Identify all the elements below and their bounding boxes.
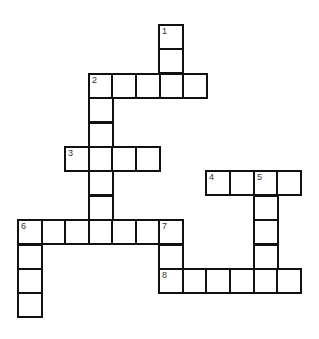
crossword-cell[interactable] xyxy=(111,146,137,172)
crossword-cell[interactable] xyxy=(276,268,302,294)
clue-number: 4 xyxy=(209,172,214,182)
crossword-cell[interactable] xyxy=(158,244,184,270)
crossword-cell[interactable] xyxy=(88,195,114,221)
crossword-cell[interactable] xyxy=(135,146,161,172)
clue-number: 1 xyxy=(162,26,167,36)
crossword-cell[interactable] xyxy=(17,292,43,318)
crossword-cell[interactable] xyxy=(88,170,114,196)
crossword-cell[interactable]: 3 xyxy=(64,146,90,172)
crossword-cell[interactable]: 1 xyxy=(158,24,184,50)
crossword-cell[interactable]: 4 xyxy=(205,170,231,196)
crossword-cell[interactable] xyxy=(111,219,137,245)
clue-number: 7 xyxy=(162,221,167,231)
clue-number: 6 xyxy=(21,221,26,231)
crossword-grid: 12345678 xyxy=(0,0,319,339)
crossword-cell[interactable] xyxy=(17,268,43,294)
crossword-cell[interactable] xyxy=(64,219,90,245)
crossword-cell[interactable] xyxy=(135,73,161,99)
crossword-cell[interactable] xyxy=(253,219,279,245)
crossword-cell[interactable] xyxy=(158,48,184,74)
crossword-cell[interactable] xyxy=(88,122,114,148)
crossword-cell[interactable] xyxy=(253,195,279,221)
crossword-cell[interactable] xyxy=(17,244,43,270)
crossword-cell[interactable] xyxy=(205,268,231,294)
clue-number: 2 xyxy=(92,75,97,85)
crossword-cell[interactable] xyxy=(276,170,302,196)
clue-number: 5 xyxy=(257,172,262,182)
crossword-cell[interactable] xyxy=(111,73,137,99)
crossword-cell[interactable]: 7 xyxy=(158,219,184,245)
crossword-cell[interactable] xyxy=(253,244,279,270)
crossword-cell[interactable] xyxy=(182,73,208,99)
crossword-cell[interactable] xyxy=(88,97,114,123)
crossword-cell[interactable]: 8 xyxy=(158,268,184,294)
clue-number: 8 xyxy=(162,270,167,280)
crossword-cell[interactable] xyxy=(158,73,184,99)
clue-number: 3 xyxy=(68,148,73,158)
crossword-cell[interactable]: 6 xyxy=(17,219,43,245)
crossword-cell[interactable] xyxy=(229,170,255,196)
crossword-cell[interactable] xyxy=(229,268,255,294)
